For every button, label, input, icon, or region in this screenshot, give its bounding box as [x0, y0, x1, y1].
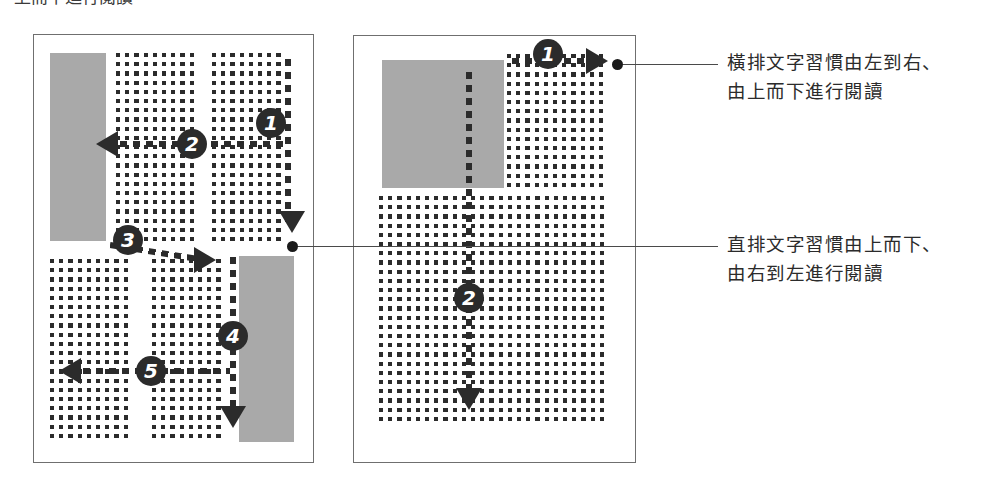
- callout-line-2: 由上而下進行閱讀: [727, 77, 942, 106]
- figure-canvas: 上而下進行閱讀 1 2 3 4 5: [0, 0, 989, 484]
- page-title-clipped: 上而下進行閱讀: [14, 0, 354, 8]
- marker-5: 5: [136, 356, 166, 386]
- flow-arrow-2: [96, 131, 118, 157]
- marker-4: 4: [218, 321, 248, 351]
- flow-arrow-5: [59, 358, 81, 384]
- flow-line-r2: [466, 72, 472, 402]
- image-block-lower: [239, 256, 294, 442]
- marker-1: 1: [256, 108, 286, 138]
- flow-arrow-4: [220, 406, 246, 428]
- text-dot-grid-top-right: [507, 54, 615, 192]
- leader-dot-horizontal: [612, 59, 623, 70]
- leader-line-horizontal: [620, 64, 718, 65]
- vertical-reading-callout: 直排文字習慣由上而下、 由右到左進行閱讀: [727, 230, 942, 288]
- flow-arrow-3: [194, 247, 216, 273]
- leader-line-vertical: [295, 246, 718, 247]
- flow-arrow-r2: [456, 388, 482, 410]
- marker-r2: 2: [454, 283, 484, 313]
- flow-arrow-r1: [586, 48, 608, 74]
- marker-2: 2: [177, 129, 207, 159]
- flow-line-1: [285, 59, 291, 225]
- callout-line-1: 橫排文字習慣由左到右、: [727, 48, 942, 77]
- horizontal-layout-panel: 1 2: [353, 35, 636, 463]
- vertical-layout-panel: 1 2 3 4 5: [33, 34, 314, 463]
- marker-3: 3: [113, 225, 143, 255]
- image-block-square: [382, 60, 504, 188]
- leader-dot-vertical: [287, 241, 298, 252]
- callout-line-2: 由右到左進行閱讀: [727, 259, 942, 288]
- text-dot-grid-body: [379, 196, 615, 428]
- marker-r1: 1: [533, 39, 563, 69]
- flow-arrow-1: [279, 211, 305, 233]
- text-dot-grid-lower-left: [50, 259, 138, 445]
- horizontal-reading-callout: 橫排文字習慣由左到右、 由上而下進行閱讀: [727, 48, 942, 106]
- callout-line-1: 直排文字習慣由上而下、: [727, 230, 942, 259]
